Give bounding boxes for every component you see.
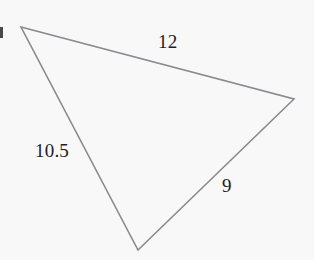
side-label-right: 9 (222, 176, 232, 195)
side-label-top: 12 (158, 32, 177, 51)
geometry-figure: 12 10.5 9 (0, 0, 314, 260)
triangle-outline (21, 27, 294, 250)
side-label-left: 10.5 (35, 141, 69, 160)
triangle-shape (0, 0, 314, 260)
vertex-mark-icon (0, 27, 3, 38)
